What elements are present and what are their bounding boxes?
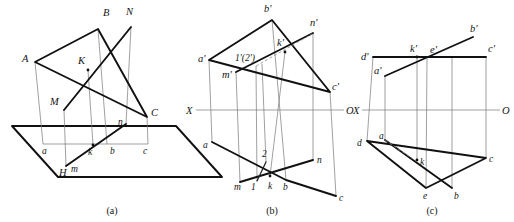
label-c-c: c <box>489 154 494 164</box>
label-N-a: N <box>125 6 134 17</box>
label-bprime-c: b' <box>470 23 478 34</box>
label-nprime-b: n' <box>310 17 318 28</box>
segment-mn-top <box>240 160 313 182</box>
label-M-a: M <box>49 96 60 107</box>
caption-a: (a) <box>106 205 117 217</box>
projector-C-c <box>147 117 148 144</box>
label-aprime-b: a' <box>198 53 206 64</box>
label-kprime-c: k' <box>410 43 418 54</box>
projectors-b <box>209 20 336 196</box>
label-H-a: H <box>58 167 68 178</box>
axis-label-x-c: X <box>352 105 360 116</box>
point-k-marker-c <box>416 159 419 162</box>
label-b-b: b <box>283 182 288 192</box>
panel-c-orthographic: X O <box>352 23 510 201</box>
projector-K-k <box>88 70 93 145</box>
label-n-a: n <box>118 117 123 127</box>
line-mn-top-b <box>240 160 313 182</box>
projector-c-b <box>330 92 336 196</box>
label-a-a: a <box>42 146 47 156</box>
label-dprime-c: d' <box>361 51 369 62</box>
triangle-top-b <box>212 142 336 196</box>
label-cprime-b: c' <box>332 81 340 92</box>
point-k-marker <box>92 144 95 147</box>
point-kprime-marker-c <box>416 56 419 59</box>
label-bprime-b: b' <box>264 3 272 14</box>
label-2-b: 2 <box>262 149 267 159</box>
axis-label-o-c: O <box>502 105 510 116</box>
label-C-a: C <box>151 107 159 118</box>
line-mn-projection <box>66 124 126 166</box>
point-k-marker-b <box>269 175 272 178</box>
caption-c: (c) <box>426 205 437 217</box>
label-1prime-2prime-b: 1'(2') <box>235 53 255 64</box>
label-a-b: a <box>203 140 208 150</box>
caption-b: (b) <box>266 205 278 217</box>
label-d-c: d <box>357 138 362 148</box>
label-m-a: m <box>71 164 78 174</box>
label-K-a: K <box>77 55 86 66</box>
point-kprime-marker <box>284 51 287 54</box>
front-view-c <box>373 37 486 76</box>
projector-d-c <box>367 57 373 141</box>
projector-m-b <box>236 72 240 182</box>
projector-k-b <box>270 52 285 176</box>
axis-xo-b: X O <box>185 105 354 116</box>
projector-M-m <box>64 110 66 166</box>
label-B-a: B <box>103 7 110 18</box>
label-mprime-b: m' <box>222 69 233 80</box>
projector-A-a <box>35 62 43 144</box>
label-n-b: n <box>317 155 322 165</box>
label-kprime-b: k' <box>277 37 285 48</box>
label-m-b: m <box>234 182 241 192</box>
panel-a-pictorial: A B C N K M H a b c k m n <box>12 6 222 178</box>
label-k-b: k <box>268 181 273 191</box>
label-k-c: k <box>420 157 425 167</box>
panel-b-orthographic: X O <box>185 3 354 203</box>
figure-canvas: A B C N K M H a b c k m n X O <box>0 0 514 222</box>
segment-mn <box>66 124 126 166</box>
descriptive-geometry-figure: A B C N K M H a b c k m n X O <box>0 0 514 222</box>
panel-a-labels: A B C N K M H a b c k m n <box>21 6 159 178</box>
label-aprime-c: a' <box>374 65 382 76</box>
label-a-c: a <box>379 131 384 141</box>
label-c-b: c <box>339 193 344 203</box>
label-e-c: e <box>423 191 427 201</box>
label-1-b: 1 <box>251 182 256 192</box>
projector-a-b <box>209 60 212 142</box>
axis-label-x-b: X <box>185 105 193 116</box>
label-cprime-c: c' <box>488 43 496 54</box>
label-A-a: A <box>21 53 29 64</box>
point-K-marker <box>87 69 90 72</box>
projector-2-b <box>262 64 266 162</box>
figure-captions: (a) (b) (c) <box>106 205 437 217</box>
label-b-c: b <box>454 191 459 201</box>
label-b-a: b <box>110 146 115 156</box>
label-c-a: c <box>143 146 148 156</box>
polyline-abc-top <box>212 142 336 196</box>
label-eprime-c: e' <box>430 44 438 55</box>
